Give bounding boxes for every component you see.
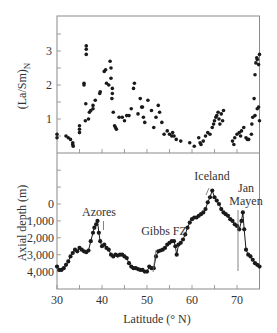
scatter-point xyxy=(55,136,59,140)
lower-ytick-label-2000: 2,000 xyxy=(27,231,54,245)
depth-marker xyxy=(210,188,214,192)
scatter-point xyxy=(219,112,223,116)
scatter-point xyxy=(192,144,196,148)
scatter-point xyxy=(84,44,88,48)
scatter-point xyxy=(91,104,95,108)
scatter-point xyxy=(188,141,192,145)
figure: Azores Gibbs FZ Iceland Jan Mayen 1 2 3 … xyxy=(0,0,277,333)
scatter-point xyxy=(108,59,112,63)
scatter-point xyxy=(233,136,237,140)
scatter-point xyxy=(84,102,88,106)
depth-marker xyxy=(217,202,221,206)
depth-marker xyxy=(172,239,176,243)
scatter-point xyxy=(221,119,225,123)
xtick-label-40: 40 xyxy=(96,293,108,307)
scatter-point xyxy=(199,143,203,147)
depth-marker xyxy=(175,253,179,257)
scatter-point xyxy=(120,116,124,120)
annotation-jan-mayen-line2: Mayen xyxy=(229,194,262,208)
scatter-point xyxy=(252,97,256,101)
scatter-point xyxy=(172,134,176,138)
scatter-point xyxy=(242,126,246,130)
scatter-point xyxy=(258,119,262,123)
scatter-point xyxy=(179,139,183,143)
scatter-point xyxy=(232,143,236,147)
scatter-point xyxy=(123,119,127,123)
la-sm-scatter-series xyxy=(55,44,261,148)
upper-ytick-label-1: 1 xyxy=(46,112,52,126)
scatter-point xyxy=(141,105,145,109)
lower-y-axis-title: Axial depth (m) xyxy=(15,185,29,262)
scatter-point xyxy=(174,138,178,142)
scatter-point xyxy=(143,121,147,125)
scatter-point xyxy=(210,126,214,130)
scatter-point xyxy=(127,114,131,118)
scatter-point xyxy=(257,63,261,67)
scatter-point xyxy=(208,133,212,137)
depth-marker xyxy=(208,195,212,199)
depth-marker xyxy=(89,239,93,243)
scatter-point xyxy=(222,109,226,113)
scatter-point xyxy=(82,83,86,87)
scatter-point xyxy=(111,87,115,91)
lower-ytick-label-0: 0 xyxy=(48,197,54,211)
scatter-point xyxy=(132,87,136,91)
scatter-point xyxy=(197,136,201,140)
scatter-point xyxy=(231,139,235,143)
xtick-label-30: 30 xyxy=(51,293,63,307)
lower-ytick-label-3000: 3,000 xyxy=(27,248,54,262)
scatter-point xyxy=(84,53,88,57)
depth-marker xyxy=(241,210,245,214)
scatter-point xyxy=(162,133,166,137)
depth-marker xyxy=(95,219,99,223)
scatter-point xyxy=(111,92,115,96)
scatter-point xyxy=(78,127,82,131)
scatter-point xyxy=(93,99,97,103)
scatter-point xyxy=(133,82,137,86)
scatter-point xyxy=(253,114,257,118)
depth-marker xyxy=(66,259,70,263)
scatter-point xyxy=(136,112,140,116)
depth-marker xyxy=(97,231,101,235)
scatter-point xyxy=(218,122,222,126)
scatter-point xyxy=(115,127,119,131)
scatter-point xyxy=(201,139,205,143)
scatter-point xyxy=(109,76,113,80)
scatter-point xyxy=(217,117,221,121)
scatter-point xyxy=(152,126,156,130)
annotation-gibbs-fz: Gibbs FZ xyxy=(141,224,187,238)
scatter-point xyxy=(204,134,208,138)
scatter-point xyxy=(69,138,73,142)
scatter-point xyxy=(71,144,75,148)
scatter-point xyxy=(117,116,121,120)
scatter-point xyxy=(109,66,113,70)
depth-marker xyxy=(203,207,207,211)
lower-ytick-label-4000: 4,000 xyxy=(27,265,54,279)
scatter-point xyxy=(257,105,261,109)
scatter-point xyxy=(171,131,175,135)
depth-marker xyxy=(107,248,111,252)
scatter-point xyxy=(250,122,254,126)
xtick-label-70: 70 xyxy=(231,293,243,307)
scatter-point xyxy=(91,107,95,111)
scatter-point xyxy=(239,134,243,138)
scatter-point xyxy=(87,117,91,121)
scatter-point xyxy=(138,97,142,101)
depth-marker xyxy=(244,248,248,252)
scatter-point xyxy=(98,90,102,94)
depth-marker xyxy=(86,248,90,252)
scatter-point xyxy=(107,83,111,87)
scatter-point xyxy=(158,110,162,114)
scatter-point xyxy=(258,53,262,57)
depth-marker xyxy=(257,264,261,268)
scatter-point xyxy=(55,133,59,137)
scatter-point xyxy=(213,119,217,123)
scatter-point xyxy=(160,121,164,125)
scatter-point xyxy=(146,99,150,103)
scatter-point xyxy=(212,122,216,126)
depth-marker xyxy=(239,219,243,223)
scatter-point xyxy=(142,116,146,120)
scatter-point xyxy=(78,131,82,135)
scatter-point xyxy=(247,138,251,142)
scatter-point xyxy=(253,73,257,77)
